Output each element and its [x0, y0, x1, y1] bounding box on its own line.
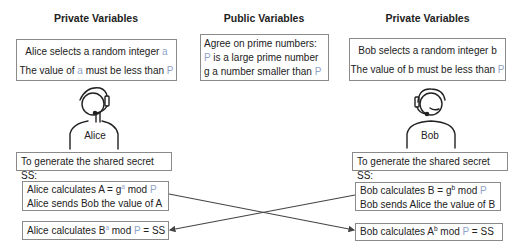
exchange-arrows	[0, 0, 521, 251]
